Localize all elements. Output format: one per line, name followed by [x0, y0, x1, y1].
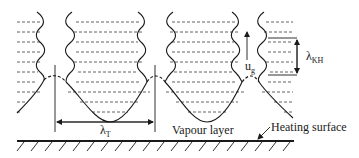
heating-surface — [17, 141, 294, 151]
taylor-wavelength-dimension — [55, 65, 155, 132]
film-boiling-diagram: λT ug λKH — [0, 0, 359, 158]
vapour-velocity-label: ug — [245, 59, 255, 75]
vapour-layer-label: Vapour layer — [172, 123, 234, 137]
column-d-left-wall — [258, 12, 267, 82]
heating-surface-leader — [258, 127, 270, 139]
column-b-right-wall — [137, 12, 147, 82]
heating-surface-label: Heating surface — [271, 120, 347, 134]
vapour-columns — [36, 12, 266, 82]
column-b-left-wall — [66, 12, 75, 82]
taylor-wavelength-label: λT — [100, 123, 111, 139]
kh-wavelength-label: λKH — [306, 49, 324, 65]
column-c-left-wall — [165, 12, 176, 82]
kh-wavelength-bracket — [268, 38, 297, 75]
column-c-right-wall — [231, 12, 242, 82]
